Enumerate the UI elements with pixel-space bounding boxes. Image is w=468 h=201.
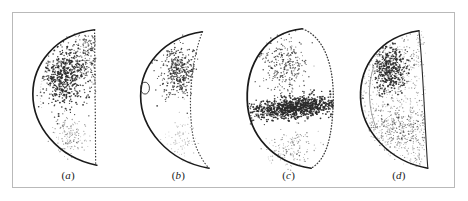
panel-a-plot bbox=[13, 13, 123, 187]
panel-b: (b) bbox=[123, 13, 233, 187]
panel-a: (a) bbox=[13, 13, 123, 187]
panel-a-label-close: ) bbox=[71, 169, 75, 181]
panel-a-label: (a) bbox=[13, 170, 123, 181]
panel-b-plot bbox=[123, 13, 233, 187]
figure-frame: (a) (b) bbox=[12, 12, 455, 188]
panel-d-right-edge bbox=[419, 31, 428, 168]
panel-b-open-ellipse-marker bbox=[141, 82, 150, 94]
panel-d-plot bbox=[344, 13, 454, 187]
panel-c-label-close: ) bbox=[291, 169, 295, 181]
panel-c-label: (c) bbox=[234, 170, 344, 181]
panel-b-label-close: ) bbox=[181, 169, 185, 181]
panel-d-label-close: ) bbox=[402, 169, 406, 181]
panel-b-right-dotted-arc bbox=[191, 32, 210, 168]
panel-b-label: (b) bbox=[123, 170, 233, 181]
figure-root: (a) (b) bbox=[0, 0, 468, 201]
panel-c-plot bbox=[234, 13, 344, 187]
panel-d-points bbox=[360, 31, 425, 168]
panel-a-points bbox=[36, 32, 96, 160]
panel-d-label: (d) bbox=[344, 170, 454, 181]
panel-c-points bbox=[246, 30, 333, 171]
panel-c: (c) bbox=[234, 13, 344, 187]
panel-d: (d) bbox=[344, 13, 454, 187]
panels-row: (a) (b) bbox=[13, 13, 454, 187]
